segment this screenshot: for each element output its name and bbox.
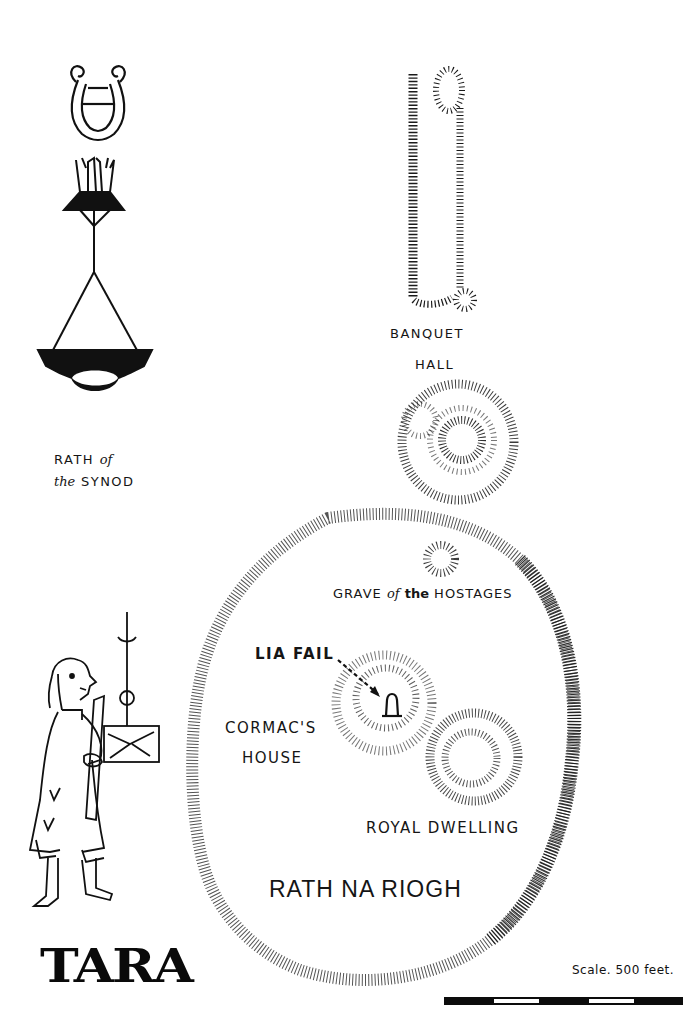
synod-word: SYNOD [81, 474, 135, 489]
scale-label: Scale. 500 feet. [572, 963, 674, 977]
lia-fail-label: LIA FAIL [255, 645, 334, 663]
grave-word: GRAVE [333, 586, 382, 601]
of-word: of [100, 452, 113, 467]
scale-segment-white-1 [494, 999, 539, 1003]
rath-word: RATH [54, 452, 94, 467]
cormacs-house-label-line1: CORMAC'S [225, 719, 317, 737]
lia-fail-stone-icon [382, 694, 402, 716]
rath-of-the-synod-earthwork [402, 384, 514, 500]
rath-of-the-synod-label-line1: RATH of [54, 452, 112, 467]
rath-of-the-synod-label-line2: the SYNOD [54, 474, 135, 489]
grave-of-the-hostages-mound [427, 545, 455, 573]
tara-site-map [0, 0, 683, 1023]
map-title: TARA [40, 938, 192, 993]
scale-segment-white-2 [589, 999, 634, 1003]
grave-of-the-hostages-label: GRAVE of the HOSTAGES [333, 586, 513, 601]
lyre-icon [71, 66, 124, 140]
hanging-lamp-icon [38, 158, 152, 390]
cormacs-house-label-line2: HOUSE [242, 749, 303, 767]
scale-bar [444, 997, 683, 1005]
hostages-word: HOSTAGES [434, 586, 512, 601]
banquet-hall-earthwork [413, 69, 474, 309]
the-word: the [54, 474, 75, 489]
the-word: the [405, 586, 429, 601]
royal-dwelling-label: ROYAL DWELLING [366, 819, 520, 837]
rath-na-riogh-label: RATH NA RIOGH [269, 876, 462, 903]
scribe-figure-icon [30, 612, 159, 906]
of-word: of [387, 586, 400, 601]
royal-dwelling-earthwork [430, 713, 518, 801]
banquet-hall-label-line2: HALL [415, 357, 454, 372]
banquet-hall-label-line1: BANQUET [390, 326, 464, 341]
